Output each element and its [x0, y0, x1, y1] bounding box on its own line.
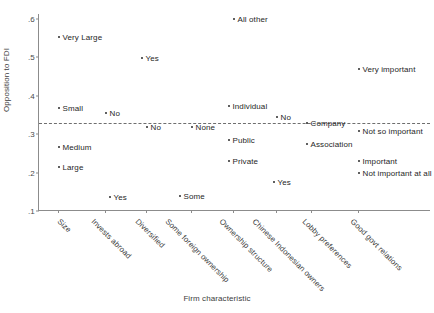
data-point-marker-icon: [273, 181, 275, 183]
data-point-marker-icon: [306, 143, 308, 145]
data-point-label: No: [110, 109, 120, 118]
y-tick-mark: [36, 95, 39, 96]
data-point-label: All other: [238, 15, 268, 24]
data-point-marker-icon: [109, 196, 111, 198]
data-point-marker-icon: [228, 139, 230, 141]
data-point-marker-icon: [228, 160, 230, 162]
y-tick-label: .1: [28, 207, 35, 216]
y-tick-mark: [36, 134, 39, 135]
data-point: Yes: [273, 173, 291, 191]
data-point: Association: [306, 135, 353, 153]
x-tick-mark: [146, 210, 147, 213]
y-tick-label: .3: [28, 130, 35, 139]
data-point: Individual: [228, 96, 267, 114]
plot-area: .6.5.4.3.2.1 Very LargeSmallMediumLargeY…: [38, 14, 430, 211]
data-point: Private: [228, 152, 258, 170]
x-tick-mark: [58, 210, 59, 213]
data-point-label: Yes: [278, 178, 291, 187]
data-point: Public: [228, 131, 255, 149]
y-tick-label: .5: [28, 53, 35, 62]
data-point: Yes: [141, 48, 159, 66]
y-tick-label: .6: [28, 15, 35, 24]
x-tick-mark: [191, 210, 192, 213]
y-axis-title: Opposition to FDI: [2, 48, 11, 112]
x-axis-category-label: Size: [56, 217, 73, 234]
data-point-label: Not important at all: [363, 169, 432, 178]
data-point-label: None: [196, 123, 216, 132]
data-point-label: Association: [311, 140, 353, 149]
data-point-marker-icon: [58, 36, 60, 38]
data-point-label: Individual: [233, 102, 268, 111]
data-point: Medium: [58, 137, 92, 155]
data-point-marker-icon: [358, 172, 360, 174]
data-point-label: Some: [184, 192, 205, 201]
data-point-marker-icon: [191, 126, 193, 128]
data-point-marker-icon: [358, 68, 360, 70]
data-point: Very Large: [58, 27, 102, 45]
y-tick-label: .2: [28, 168, 35, 177]
x-tick-mark: [233, 210, 234, 213]
data-point: No: [105, 104, 120, 122]
y-tick-mark: [36, 19, 39, 20]
x-axis-category-label: Invests abroad: [90, 217, 134, 261]
data-point-marker-icon: [228, 105, 230, 107]
y-tick-mark: [36, 211, 39, 212]
data-point: Small: [58, 99, 83, 117]
data-point-marker-icon: [306, 122, 308, 124]
scatter-plot-figure: Opposition to FDI .6.5.4.3.2.1 Very Larg…: [0, 0, 434, 313]
data-point-label: No: [151, 123, 161, 132]
data-point-marker-icon: [233, 18, 235, 20]
y-tick-mark: [36, 172, 39, 173]
data-point-marker-icon: [358, 130, 360, 132]
x-tick-mark: [276, 210, 277, 213]
data-point-label: Public: [233, 136, 255, 145]
data-point: Very important: [358, 60, 415, 78]
data-point: Not important at all: [358, 164, 432, 182]
x-axis-category-label: Diversified: [134, 217, 167, 250]
data-point: Company: [306, 114, 345, 132]
data-point-marker-icon: [179, 195, 181, 197]
data-point: Large: [58, 158, 83, 176]
data-point-label: Private: [233, 157, 259, 166]
data-point: No: [276, 108, 291, 126]
data-point-label: Company: [311, 119, 346, 128]
data-point-label: No: [281, 113, 291, 122]
data-point-marker-icon: [58, 146, 60, 148]
y-tick-label: .4: [28, 91, 35, 100]
data-point-label: Very Large: [63, 33, 103, 42]
data-point: No: [146, 118, 161, 136]
data-point-label: Medium: [63, 143, 92, 152]
data-point: All other: [233, 10, 268, 28]
data-point-label: Yes: [114, 193, 127, 202]
data-point-label: Yes: [146, 54, 159, 63]
x-axis-category-label: Good govt relations: [349, 217, 405, 273]
data-point-marker-icon: [58, 107, 60, 109]
data-point-marker-icon: [276, 116, 278, 118]
data-point-marker-icon: [141, 57, 143, 59]
data-point-label: Not so important: [363, 127, 423, 136]
data-point-marker-icon: [358, 160, 360, 162]
data-point-label: Very important: [363, 65, 416, 74]
x-axis-title: Firm characteristic: [0, 294, 434, 303]
data-point: Some: [179, 187, 205, 205]
y-tick-mark: [36, 57, 39, 58]
data-point: None: [191, 118, 215, 136]
data-point-label: Small: [63, 104, 84, 113]
data-point-label: Large: [63, 163, 84, 172]
x-tick-mark: [105, 210, 106, 213]
x-tick-mark: [311, 210, 312, 213]
data-point-marker-icon: [58, 166, 60, 168]
x-tick-mark: [358, 210, 359, 213]
data-point: Not so important: [358, 121, 423, 139]
data-point-marker-icon: [105, 112, 107, 114]
data-point-marker-icon: [146, 126, 148, 128]
x-axis-category-label: Lobby preferences: [301, 217, 354, 270]
data-point: Yes: [109, 187, 127, 205]
